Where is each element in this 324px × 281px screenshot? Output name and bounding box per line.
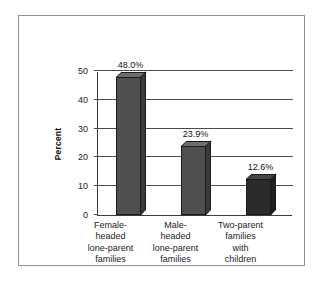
plot-area: 0102030405048.0%23.9%12.6% [97, 72, 292, 216]
bar-front-face [246, 179, 271, 215]
y-axis-tick-label: 40 [78, 95, 88, 104]
bar[interactable]: 23.9% [181, 146, 206, 215]
bar-side-face [206, 141, 211, 215]
bar-value-label: 12.6% [248, 163, 274, 172]
bar-value-label: 23.9% [183, 130, 209, 139]
y-axis-tick-label: 0 [83, 211, 88, 220]
y-axis-tick-label: 50 [78, 67, 88, 76]
chart-figure: Percent 0102030405048.0%23.9%12.6% Femal… [0, 0, 324, 281]
y-axis-tick-label: 30 [78, 124, 88, 133]
bar-top-face [116, 72, 147, 77]
bar-side-face [141, 71, 146, 215]
gridline [98, 70, 293, 71]
bar-front-face [181, 146, 206, 215]
y-axis-tick-label: 10 [78, 182, 88, 191]
y-axis-title: Percent [53, 128, 63, 161]
bar[interactable]: 48.0% [116, 77, 141, 215]
y-axis-tick: 50 [94, 70, 98, 71]
bar-slot: 23.9% [163, 72, 228, 215]
bar-side-face [271, 173, 276, 215]
bar-front-face [116, 77, 141, 215]
figure-frame: Percent 0102030405048.0%23.9%12.6% Femal… [18, 15, 305, 266]
bar[interactable]: 12.6% [246, 179, 271, 215]
bar-value-label: 48.0% [118, 61, 144, 70]
bar-slot: 12.6% [228, 72, 293, 215]
y-axis-tick-label: 20 [78, 153, 88, 162]
bar-top-face [246, 174, 277, 179]
x-axis-category-label: Two-parent families with children [202, 220, 279, 266]
bar-slot: 48.0% [98, 72, 163, 215]
